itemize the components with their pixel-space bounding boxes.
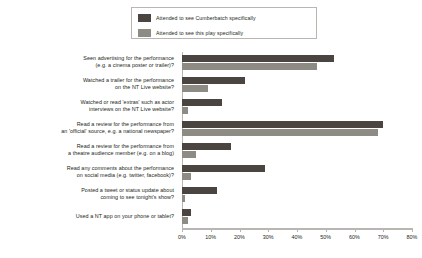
chart-legend: Attended to see Cumberbatch specifically… — [131, 7, 317, 39]
legend-item-this-play: Attended to see this play specifically — [138, 27, 310, 39]
category-label: Read a review for the performance froma … — [0, 143, 174, 156]
bar-this-play — [182, 107, 188, 114]
axis-tick — [268, 228, 269, 232]
value-axis: 0%10%20%30%40%50%60%70%80% — [182, 228, 412, 230]
category-label: Watched a trailer for the performanceon … — [0, 77, 174, 90]
bar-this-play — [182, 173, 191, 180]
axis-tick — [326, 228, 327, 232]
axis-tick-label: 80% — [407, 234, 418, 241]
axis-tick — [211, 228, 212, 232]
bar-cumberbatch — [182, 187, 217, 194]
axis-tick — [383, 228, 384, 232]
axis-tick-label: 20% — [234, 234, 245, 241]
axis-tick-label: 40% — [292, 234, 303, 241]
axis-tick-label: 60% — [349, 234, 360, 241]
bar-cumberbatch — [182, 99, 222, 106]
axis-tick-label: 10% — [205, 234, 216, 241]
category-label: Read a review for the performance froman… — [0, 121, 174, 134]
axis-tick — [412, 228, 413, 232]
axis-tick-label: 70% — [378, 234, 389, 241]
category-axis-labels: Seen advertising for the performance(e.g… — [0, 52, 178, 228]
axis-tick-label: 30% — [263, 234, 274, 241]
bar-cumberbatch — [182, 165, 265, 172]
bar-chart: Attended to see Cumberbatch specifically… — [0, 0, 422, 258]
plot-area — [182, 52, 412, 228]
legend-label-cumberbatch: Attended to see Cumberbatch specifically — [156, 15, 256, 21]
category-label: Read any comments about the performanceo… — [0, 165, 174, 178]
axis-tick — [355, 228, 356, 232]
bar-this-play — [182, 63, 317, 70]
axis-tick — [240, 228, 241, 232]
category-label: Used a NT app on your phone or tablet? — [0, 213, 174, 220]
bar-cumberbatch — [182, 55, 334, 62]
bar-this-play — [182, 151, 196, 158]
bar-this-play — [182, 129, 378, 136]
bar-cumberbatch — [182, 121, 383, 128]
bar-cumberbatch — [182, 209, 191, 216]
axis-tick-label: 50% — [320, 234, 331, 241]
category-label: Posted a tweet or status update aboutcom… — [0, 187, 174, 200]
legend-label-this-play: Attended to see this play specifically — [156, 30, 243, 36]
category-label: Watched or read 'extras' such as actorin… — [0, 99, 174, 112]
axis-tick — [297, 228, 298, 232]
axis-tick — [182, 228, 183, 232]
bar-this-play — [182, 85, 208, 92]
legend-item-cumberbatch: Attended to see Cumberbatch specifically — [138, 12, 310, 24]
legend-swatch-cumberbatch — [138, 14, 151, 22]
bar-cumberbatch — [182, 77, 245, 84]
category-label: Seen advertising for the performance(e.g… — [0, 55, 174, 68]
bar-cumberbatch — [182, 143, 231, 150]
axis-tick-label: 0% — [178, 234, 186, 241]
bar-this-play — [182, 195, 185, 202]
bar-this-play — [182, 217, 188, 224]
legend-swatch-this-play — [138, 29, 151, 37]
